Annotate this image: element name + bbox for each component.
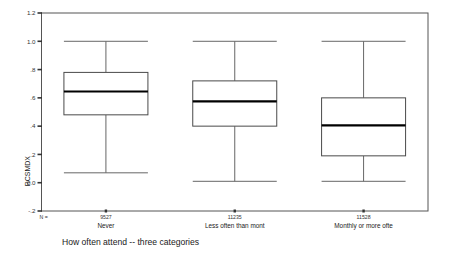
x-axis-title: How often attend -- three categories <box>62 237 199 247</box>
n-row-label: N = <box>40 214 48 220</box>
y-tick-label: 1.0 <box>27 38 36 45</box>
n-value: 11235 <box>228 214 242 220</box>
y-tick-label: .8 <box>30 66 36 73</box>
x-tick-mark <box>362 210 364 213</box>
y-tick-label: 1.2 <box>27 9 36 16</box>
interquartile-box <box>322 98 406 156</box>
category-label: Never <box>97 222 115 229</box>
y-tick-label: .6 <box>30 94 36 101</box>
x-axis-title-text: How often attend -- three categories <box>62 237 199 247</box>
y-tick-label: -.2 <box>28 207 36 214</box>
interquartile-box <box>64 72 148 114</box>
x-tick-mark <box>105 210 107 213</box>
y-tick-label: .2 <box>30 151 36 158</box>
y-axis-label: RCSMDX <box>24 156 31 187</box>
boxplot-figure: 1.21.0.8.6.4.20.0-.2 RCSMDX N =9527Never… <box>0 0 452 255</box>
y-tick-label: .4 <box>30 122 36 129</box>
boxplot-svg: 1.21.0.8.6.4.20.0-.2 RCSMDX N =9527Never… <box>0 0 452 255</box>
category-label: Less often than mont <box>205 222 265 229</box>
interquartile-box <box>193 81 277 126</box>
n-value: 9527 <box>100 214 112 220</box>
y-axis-title-text: RCSMDX <box>24 156 31 187</box>
x-tick-mark <box>234 210 236 213</box>
category-label: Monthly or more ofte <box>334 222 393 230</box>
n-value: 11528 <box>357 214 371 220</box>
